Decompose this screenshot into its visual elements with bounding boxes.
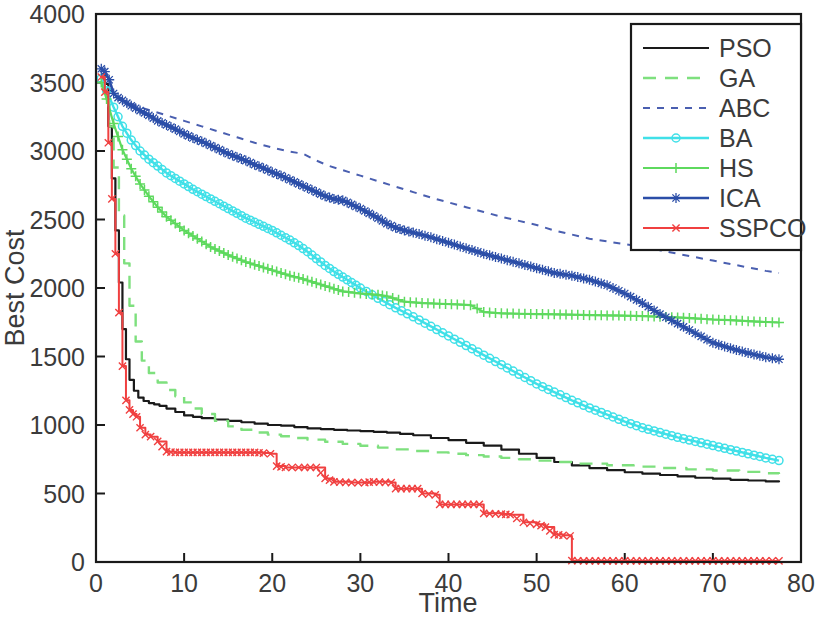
data-marker-plus <box>307 277 317 287</box>
x-tick-label: 10 <box>170 569 198 597</box>
data-marker-plus <box>272 267 282 277</box>
y-tick-label: 3000 <box>29 137 85 165</box>
legend: PSOGAABCBAHSICASSPCO <box>631 24 807 250</box>
data-marker-plus <box>382 291 392 301</box>
data-marker-plus <box>214 246 224 256</box>
legend-label-abc: ABC <box>719 94 770 122</box>
y-tick-label: 2500 <box>29 206 85 234</box>
x-axis-title: Time <box>419 588 478 618</box>
y-tick-label: 4000 <box>29 0 85 28</box>
data-marker-plus <box>316 280 326 290</box>
data-marker-plus <box>219 248 229 258</box>
data-marker-plus <box>122 154 132 164</box>
data-marker-plus <box>241 257 251 267</box>
figure-container: 0102030405060708005001000150020002500300… <box>0 0 819 623</box>
x-tick-label: 80 <box>787 569 815 597</box>
x-tick-label: 60 <box>611 569 639 597</box>
data-marker-plus <box>325 282 335 292</box>
data-marker-plus <box>303 275 313 285</box>
y-tick-label: 2000 <box>29 274 85 302</box>
data-marker-plus <box>245 258 255 268</box>
y-tick-label: 1000 <box>29 411 85 439</box>
y-tick-label: 500 <box>43 480 85 508</box>
legend-label-sspco: SSPCO <box>719 214 807 242</box>
data-marker-plus <box>320 281 330 291</box>
data-marker-plus <box>131 171 141 181</box>
legend-label-pso: PSO <box>719 34 772 62</box>
data-marker-plus <box>258 262 268 272</box>
data-marker-plus <box>201 239 211 249</box>
data-marker-plus <box>250 260 260 270</box>
x-tick-label: 70 <box>699 569 727 597</box>
data-marker-plus <box>228 252 238 262</box>
data-marker-plus <box>267 265 277 275</box>
data-marker-plus <box>294 273 304 283</box>
data-marker-plus <box>188 231 198 241</box>
data-marker-plus <box>276 268 286 278</box>
y-tick-label: 0 <box>71 548 85 576</box>
data-marker-plus <box>329 284 339 294</box>
data-marker-plus <box>289 272 299 282</box>
y-tick-label: 1500 <box>29 343 85 371</box>
x-tick-label: 50 <box>523 569 551 597</box>
data-marker-plus <box>254 261 264 271</box>
data-marker-plus <box>126 164 136 174</box>
data-marker-x <box>513 515 520 522</box>
data-marker-plus <box>210 244 220 254</box>
data-marker-plus <box>298 274 308 284</box>
data-marker-plus <box>232 254 242 264</box>
data-marker-asterisk <box>100 67 110 77</box>
data-marker-asterisk <box>774 354 784 364</box>
x-tick-label: 0 <box>89 569 103 597</box>
best-cost-vs-time-chart: 0102030405060708005001000150020002500300… <box>0 0 819 623</box>
data-marker-plus <box>236 255 246 265</box>
legend-label-hs: HS <box>719 154 754 182</box>
legend-label-ba: BA <box>719 124 753 152</box>
data-marker-plus <box>333 285 343 295</box>
data-marker-x <box>317 469 324 476</box>
data-marker-asterisk <box>671 193 681 203</box>
y-axis-title: Best Cost <box>0 229 30 347</box>
data-marker-plus <box>774 318 784 328</box>
data-marker-plus <box>206 242 216 252</box>
x-tick-label: 30 <box>346 569 374 597</box>
data-marker-plus <box>263 264 273 274</box>
data-marker-plus <box>311 278 321 288</box>
legend-label-ica: ICA <box>719 184 761 212</box>
data-marker-plus <box>223 250 233 260</box>
data-marker-plus <box>197 236 207 246</box>
data-marker-plus <box>184 228 194 238</box>
x-tick-label: 20 <box>258 569 286 597</box>
data-marker-x <box>526 520 533 527</box>
data-marker-plus <box>117 145 127 155</box>
data-marker-plus <box>388 293 398 303</box>
data-marker-plus <box>285 271 295 281</box>
y-tick-label: 3500 <box>29 69 85 97</box>
data-marker-plus <box>192 234 202 244</box>
legend-label-ga: GA <box>719 64 755 92</box>
data-marker-plus <box>280 269 290 279</box>
